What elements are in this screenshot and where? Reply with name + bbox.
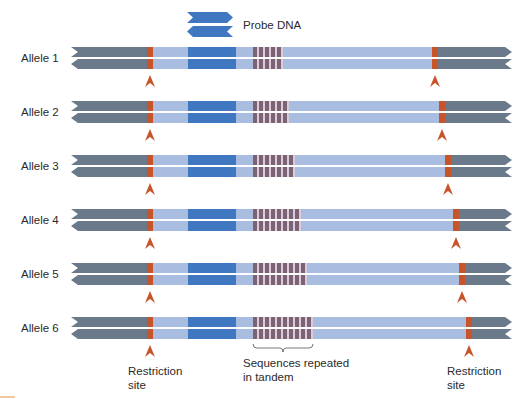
allele-3-probe-region	[188, 155, 236, 165]
allele-4-right-flank	[459, 209, 512, 219]
repeat-unit	[277, 221, 281, 231]
repeat-unit	[259, 329, 263, 339]
allele-2-right-restriction-site	[439, 113, 445, 123]
repeat-unit	[253, 317, 257, 327]
repeat-unit	[277, 275, 281, 285]
allele-6-left-restriction-site	[147, 329, 153, 339]
allele-2-probe-region	[188, 101, 236, 111]
repeat-unit	[271, 221, 275, 231]
right-restriction-arrow-icon	[464, 345, 474, 357]
left-restriction-arrow-icon	[145, 129, 155, 141]
repeat-unit	[253, 155, 257, 165]
allele-5-right-flank	[465, 263, 512, 273]
repeat-unit	[265, 209, 269, 219]
repeat-unit	[283, 275, 287, 285]
repeat-unit	[265, 221, 269, 231]
repeat-unit	[271, 59, 275, 69]
repeat-unit	[277, 263, 281, 273]
allele-1-right-flank	[438, 47, 512, 57]
left-restriction-site-caption: Restriction site	[128, 364, 182, 392]
allele-6-right-flank	[472, 317, 512, 327]
repeat-unit	[277, 59, 281, 69]
allele-3-right-restriction-site	[445, 155, 451, 165]
repeat-unit	[253, 209, 257, 219]
repeat-unit	[277, 167, 281, 177]
allele-6-probe-region	[188, 317, 236, 327]
allele-4-left-flank	[71, 209, 147, 219]
repeat-unit	[307, 317, 311, 327]
left-restriction-arrow-icon	[145, 183, 155, 195]
repeat-unit	[289, 155, 293, 165]
allele-1-right-restriction-site	[432, 47, 438, 57]
repeat-unit	[271, 209, 275, 219]
allele-1-probe-region	[188, 47, 236, 57]
repeat-unit	[277, 317, 281, 327]
repeat-unit	[259, 275, 263, 285]
allele-6-right-restriction-site	[466, 329, 472, 339]
repeat-unit	[265, 329, 269, 339]
repeat-unit	[295, 317, 299, 327]
repeat-unit	[259, 209, 263, 219]
allele-2-probe-region	[188, 113, 236, 123]
repeat-unit	[295, 221, 299, 231]
allele-6-left-restriction-site	[147, 317, 153, 327]
repeat-unit	[271, 113, 275, 123]
repeat-unit	[259, 155, 263, 165]
repeat-unit	[265, 47, 269, 57]
allele-6-left-flank	[71, 329, 147, 339]
allele-5-probe-region	[188, 275, 236, 285]
repeat-unit	[271, 167, 275, 177]
left-restriction-arrow-icon	[145, 75, 155, 87]
repeat-unit	[289, 167, 293, 177]
repeat-unit	[283, 221, 287, 231]
repeat-unit	[301, 317, 305, 327]
allele-3-left-restriction-site	[147, 155, 153, 165]
allele-3-right-flank	[451, 155, 512, 165]
repeat-unit	[283, 317, 287, 327]
allele-6-right-restriction-site	[466, 317, 472, 327]
repeat-unit	[265, 317, 269, 327]
repeat-unit	[283, 167, 287, 177]
allele-3-label: Allele 3	[21, 160, 59, 173]
repeat-unit	[253, 275, 257, 285]
allele-1-left-flank	[71, 47, 147, 57]
repeat-unit	[289, 317, 293, 327]
allele-4-left-flank	[71, 221, 147, 231]
repeat-unit	[295, 209, 299, 219]
allele-5-left-restriction-site	[147, 275, 153, 285]
allele-3-right-restriction-site	[445, 167, 451, 177]
repeat-unit	[283, 101, 287, 111]
repeat-unit	[307, 329, 311, 339]
allele-1-left-restriction-site	[147, 59, 153, 69]
allele-5-right-restriction-site	[459, 263, 465, 273]
probe-dna-top-strand-icon	[187, 12, 233, 23]
tandem-repeats-caption: Sequences repeated in tandem	[243, 356, 349, 384]
repeat-unit	[259, 221, 263, 231]
repeat-unit	[265, 263, 269, 273]
corner-mark	[0, 396, 15, 398]
allele-6-probe-region	[188, 329, 236, 339]
allele-3-probe-region	[188, 167, 236, 177]
repeat-unit	[253, 113, 257, 123]
repeat-unit	[289, 221, 293, 231]
allele-2-left-flank	[71, 113, 147, 123]
repeat-unit	[289, 275, 293, 285]
allele-2-label: Allele 2	[21, 106, 59, 119]
allele-5-probe-region	[188, 263, 236, 273]
allele-1-right-restriction-site	[432, 59, 438, 69]
allele-5-right-flank	[465, 275, 512, 285]
repeat-unit	[301, 275, 305, 285]
repeat-unit	[283, 209, 287, 219]
right-restriction-arrow-icon	[437, 129, 447, 141]
left-restriction-arrow-icon	[145, 291, 155, 303]
repeat-unit	[271, 317, 275, 327]
allele-4-label: Allele 4	[21, 214, 59, 227]
repeat-unit	[277, 209, 281, 219]
allele-2-left-restriction-site	[147, 113, 153, 123]
repeat-unit	[253, 167, 257, 177]
repeat-unit	[253, 47, 257, 57]
allele-4-probe-region	[188, 221, 236, 231]
repeat-unit	[295, 275, 299, 285]
repeat-unit	[295, 263, 299, 273]
caption-line: in tandem	[243, 370, 349, 384]
